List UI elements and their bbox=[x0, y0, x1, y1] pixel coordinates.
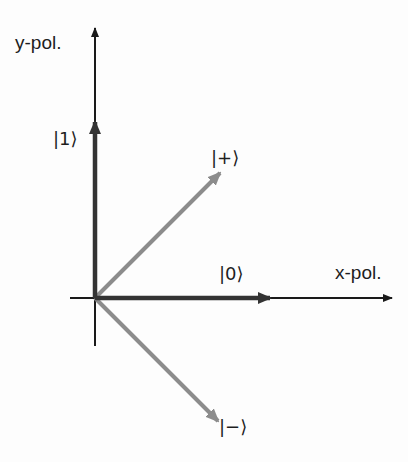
polarization-diagram: y-pol. x-pol. |1⟩ |+⟩ |0⟩ |−⟩ bbox=[0, 0, 408, 462]
x-axis-label: x-pol. bbox=[335, 263, 381, 282]
diagram-svg bbox=[0, 0, 408, 462]
ket-plus-label: |+⟩ bbox=[211, 149, 239, 167]
ket-minus-label: |−⟩ bbox=[219, 418, 247, 436]
ket-plus-vector bbox=[95, 173, 220, 298]
ket-1-label: |1⟩ bbox=[53, 130, 78, 148]
y-axis-label: y-pol. bbox=[15, 33, 61, 52]
ket-0-label: |0⟩ bbox=[219, 265, 244, 283]
ket-minus-vector bbox=[95, 298, 218, 421]
